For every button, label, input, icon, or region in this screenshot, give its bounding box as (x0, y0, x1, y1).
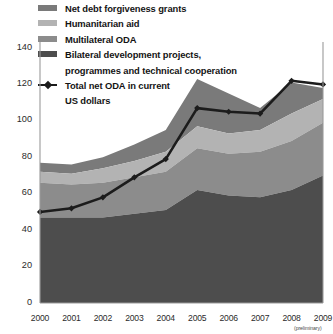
stacked-areas-group (40, 79, 323, 303)
y-tick-label-40: 40 (6, 224, 32, 234)
y-tick-label-20: 20 (6, 260, 32, 270)
preliminary-note: (preliminary) (294, 325, 322, 331)
oda-stacked-area-chart: Net debt forgiveness grants Humanitarian… (0, 0, 333, 334)
y-tick-label-60: 60 (6, 187, 32, 197)
y-tick-label-100: 100 (6, 114, 32, 124)
plot-area: 140120100806040200 200020012002200320042… (0, 0, 333, 334)
x-tick-label-2009: 2009 (303, 313, 333, 323)
y-tick-label-80: 80 (6, 151, 32, 161)
y-tick-label-120: 120 (6, 78, 32, 88)
y-tick-label-0: 0 (6, 297, 32, 307)
y-tick-label-140: 140 (6, 42, 32, 52)
plot-svg (0, 0, 333, 334)
